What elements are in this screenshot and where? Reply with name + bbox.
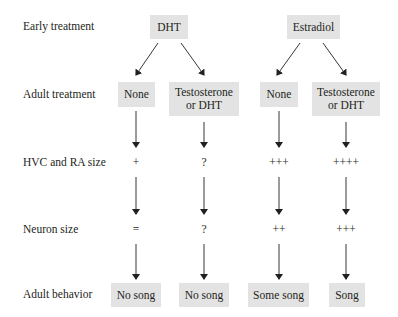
row-label-hvc-ra-size: HVC and RA size: [23, 156, 106, 168]
adult-treatment-box: None: [118, 82, 155, 107]
adult-treatment-box: Testosterone or DHT: [312, 82, 380, 116]
row-label-neuron-size: Neuron size: [23, 223, 78, 235]
hvc-size-value: +++: [259, 156, 299, 168]
hvc-size-value: +: [116, 156, 156, 168]
adult-treatment-box: None: [260, 82, 298, 107]
adult-treatment-box: Testosterone or DHT: [169, 82, 239, 116]
row-label-adult-treatment: Adult treatment: [23, 88, 96, 100]
row-label-adult-behavior: Adult behavior: [23, 288, 92, 300]
arrow-dht-testo: [181, 43, 204, 75]
neuron-size-value: ++: [259, 223, 299, 235]
arrow-dht-none: [136, 43, 158, 75]
early-dht-box: DHT: [150, 15, 188, 39]
neuron-size-value: =: [116, 223, 156, 235]
hvc-size-value: ++++: [326, 156, 366, 168]
neuron-size-value: +++: [326, 223, 366, 235]
behavior-box: No song: [111, 283, 161, 307]
hvc-size-value: ?: [184, 156, 224, 168]
early-estradiol-box: Estradiol: [287, 15, 340, 39]
neuron-size-value: ?: [184, 223, 224, 235]
row-label-early-treatment: Early treatment: [23, 20, 94, 32]
arrow-estradiol-none: [277, 43, 300, 75]
behavior-box: Some song: [248, 283, 309, 307]
behavior-box: No song: [179, 283, 229, 307]
behavior-box: Song: [329, 283, 365, 307]
arrow-estradiol-testo: [323, 43, 346, 75]
